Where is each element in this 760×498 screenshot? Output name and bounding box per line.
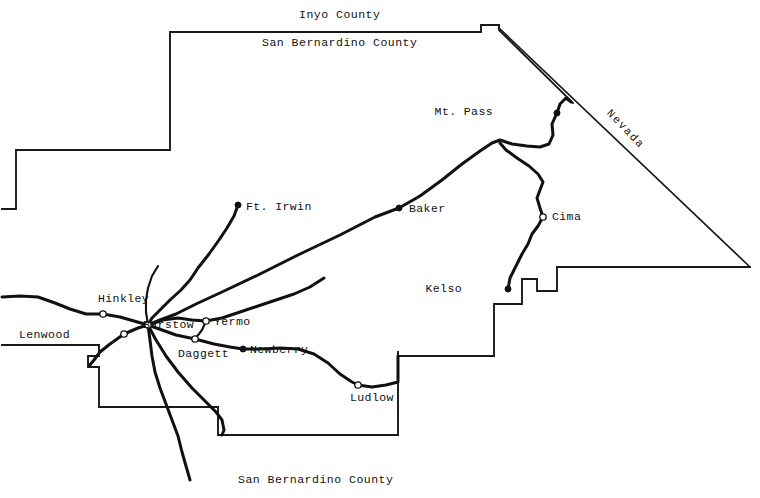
city-label-daggett: Daggett (178, 348, 229, 360)
city-marker-daggett[interactable] (192, 336, 198, 342)
region-label-san-bernardino-county-south: San Bernardino County (238, 474, 393, 486)
city-label-ludlow: Ludlow (350, 392, 394, 404)
region-label-san-bernardino-county-north: San Bernardino County (262, 37, 417, 49)
city-label-barstow: Barstow (143, 319, 194, 331)
city-marker-newberry[interactable] (240, 346, 246, 352)
city-marker-mt-pass[interactable] (554, 110, 560, 116)
city-marker-cima[interactable] (540, 214, 546, 220)
city-marker-ludlow[interactable] (355, 382, 361, 388)
city-label-newberry: Newberry (250, 344, 308, 356)
city-markers (100, 110, 560, 388)
road-barstow-southeast-road (148, 325, 224, 435)
city-label-hinkley: Hinkley (98, 293, 149, 305)
city-marker-ft-irwin[interactable] (235, 202, 241, 208)
region-label-inyo-county: Inyo County (299, 9, 380, 21)
city-label-baker: Baker (409, 203, 446, 215)
county-boundaries (2, 25, 750, 435)
city-label-lenwood: Lenwood (0, 329, 70, 341)
map-canvas (0, 0, 760, 498)
road-kelso-cima-road (500, 143, 543, 289)
desert-region-map: Mt. PassCimaKelsoBakerFt. IrwinHinkleyBa… (0, 0, 760, 498)
city-label-ft-irwin: Ft. Irwin (246, 201, 312, 213)
city-marker-hinkley[interactable] (100, 311, 106, 317)
county-boundary-east (398, 267, 750, 356)
city-marker-baker[interactable] (396, 205, 402, 211)
city-label-yermo: Yermo (214, 316, 251, 328)
city-label-cima: Cima (552, 211, 581, 223)
city-marker-yermo[interactable] (203, 318, 209, 324)
city-label-mt-pass: Mt. Pass (0, 106, 493, 118)
city-marker-lenwood[interactable] (121, 331, 127, 337)
city-marker-kelso[interactable] (505, 286, 511, 292)
city-label-kelso: Kelso (0, 283, 462, 295)
